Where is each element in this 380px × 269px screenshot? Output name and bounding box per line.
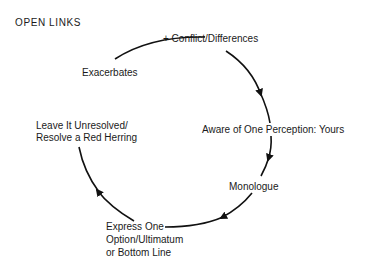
node-exacerbates: Exacerbates: [82, 67, 138, 79]
node-leave-line-1: Leave It Unresolved/: [36, 120, 137, 132]
node-monologue: Monologue: [229, 181, 278, 193]
node-express-line-1: Express One: [106, 220, 183, 233]
edge-express-to-leave: [97, 190, 134, 221]
node-aware: Aware of One Perception: Yours: [202, 124, 344, 136]
node-express: Express One Option/Ultimatum or Bottom L…: [106, 220, 183, 259]
edge-aware-to-monologue: [268, 136, 271, 160]
edge-express-to-leave-tail: [79, 147, 99, 192]
edge-conflict-to-aware: [226, 51, 261, 95]
node-leave-line-2: Resolve a Red Herring: [36, 132, 137, 144]
node-express-line-3: or Bottom Line: [106, 246, 183, 259]
node-express-line-2: Option/Ultimatum: [106, 233, 183, 246]
edge-conflict-to-aware-tail: [260, 92, 270, 123]
edge-monologue-to-express: [221, 193, 252, 218]
edge-aware-to-monologue-tail: [261, 157, 269, 176]
node-conflict: + Conflict/Differences: [163, 33, 258, 45]
node-leave: Leave It Unresolved/ Resolve a Red Herri…: [36, 120, 137, 144]
